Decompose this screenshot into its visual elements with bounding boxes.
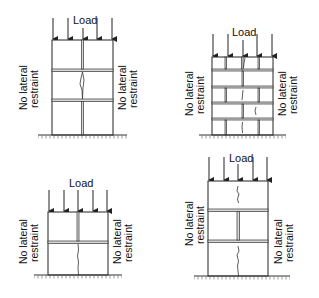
masonry-load-diagram: Load No lateral restraint No lateral res… xyxy=(0,0,319,298)
load-label: Load xyxy=(69,177,93,189)
right-label-line2: restraint xyxy=(287,76,299,114)
right-label-line2: restraint xyxy=(283,224,295,262)
wall xyxy=(208,181,268,276)
load-label: Load xyxy=(232,26,256,38)
ground xyxy=(34,275,122,279)
brick-wall xyxy=(212,57,273,135)
panel-a: Load No lateral restraint No lateral res… xyxy=(17,14,139,139)
load-label: Load xyxy=(73,14,97,26)
right-label-line2: restraint xyxy=(127,70,139,108)
left-label-line2: restraint xyxy=(194,206,206,244)
ground xyxy=(194,276,290,280)
wall xyxy=(52,40,113,135)
right-label-line2: restraint xyxy=(122,224,134,262)
ground xyxy=(199,135,286,139)
load-arrows xyxy=(49,190,107,211)
left-label-line2: restraint xyxy=(28,70,40,108)
wall xyxy=(48,212,108,275)
panel-d: Load No lateral restraint No lateral res… xyxy=(183,152,295,280)
load-label: Load xyxy=(229,152,253,164)
panel-b: Load xyxy=(183,26,299,139)
ground xyxy=(38,135,127,139)
panel-c: Load No lateral restraint No lateral res… xyxy=(17,177,134,279)
left-label-line2: restraint xyxy=(28,224,40,262)
left-label-line2: restraint xyxy=(194,76,206,114)
